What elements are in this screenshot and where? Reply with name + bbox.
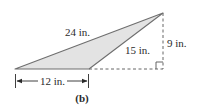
triangle bbox=[15, 13, 163, 69]
triangle-diagram: 24 in. 15 in. 9 in. 12 in. (b) bbox=[0, 0, 199, 112]
label-height: 9 in. bbox=[167, 37, 187, 49]
arrow-left-icon bbox=[17, 79, 23, 83]
label-long-side: 24 in. bbox=[65, 26, 90, 38]
base-dimension: 12 in. bbox=[16, 74, 89, 88]
right-angle-marker bbox=[156, 62, 163, 69]
label-right-side: 15 in. bbox=[125, 44, 150, 56]
label-base: 12 in. bbox=[40, 75, 65, 87]
arrow-right-icon bbox=[82, 79, 88, 83]
figure-caption: (b) bbox=[75, 92, 89, 105]
